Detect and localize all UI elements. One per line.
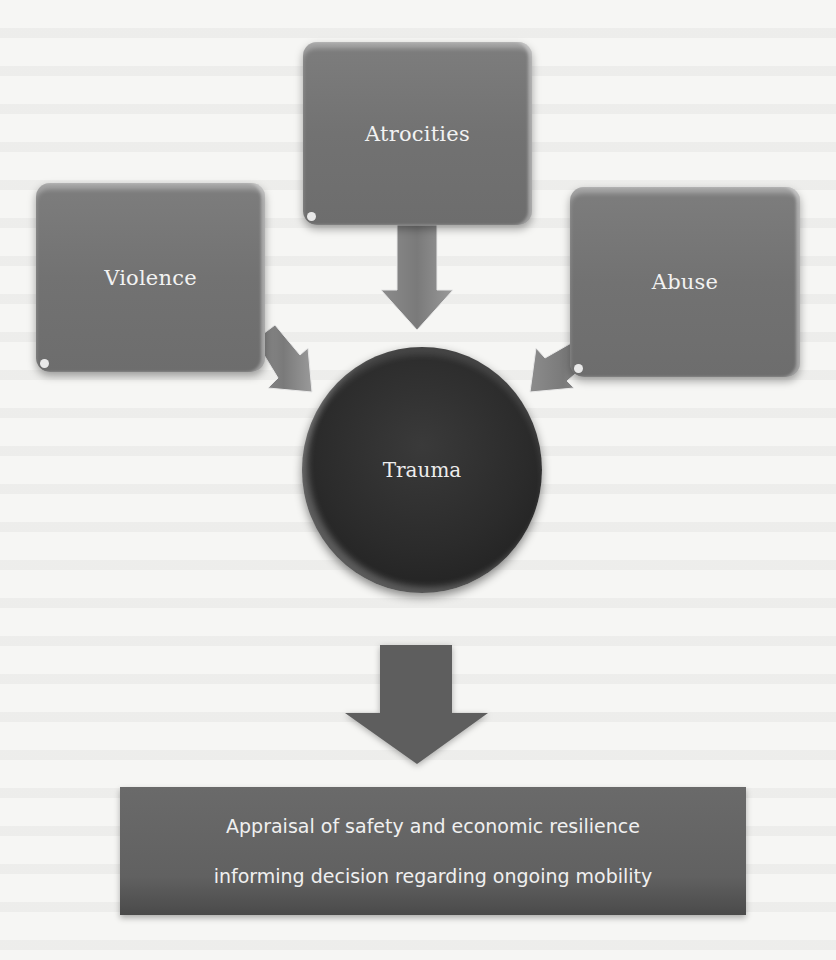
cause-label-abuse: Abuse	[652, 270, 718, 294]
cause-box-atrocities: Atrocities	[303, 42, 532, 225]
cause-label-violence: Violence	[104, 266, 197, 290]
outcome-line-2: informing decision regarding ongoing mob…	[214, 851, 653, 901]
cause-box-abuse: Abuse	[570, 187, 800, 377]
cause-label-atrocities: Atrocities	[365, 122, 470, 146]
arrow-atrocities-to-trauma-icon	[381, 225, 453, 330]
outcome-line-1: Appraisal of safety and economic resilie…	[226, 801, 640, 851]
outcome-box: Appraisal of safety and economic resilie…	[120, 787, 746, 915]
arrow-trauma-to-outcome-icon	[345, 645, 488, 764]
cause-box-violence: Violence	[36, 183, 265, 372]
trauma-label: Trauma	[383, 458, 462, 482]
trauma-circle: Trauma	[302, 347, 542, 593]
